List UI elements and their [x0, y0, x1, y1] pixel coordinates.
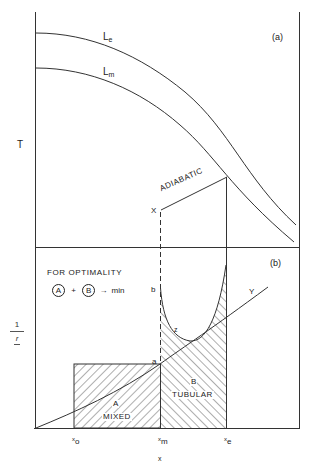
- region-a-name: MIXED: [102, 413, 132, 421]
- point-a-label: a: [152, 358, 156, 366]
- tick-label-xe: xe: [224, 436, 231, 446]
- region-b-tubular: [161, 265, 227, 428]
- y-axis-label-t: T: [17, 140, 23, 150]
- diagram-figure: [0, 0, 309, 475]
- circled-b: B: [82, 284, 95, 297]
- optimality-note-formula: A + B → min: [52, 284, 125, 297]
- y-axis-label-inverse-rate: 1 r: [10, 320, 24, 345]
- region-b-name: TUBULAR: [171, 391, 214, 399]
- arrow-icon: →: [99, 286, 107, 295]
- curve-z-label: z: [174, 326, 178, 333]
- region-b-letter: B: [190, 378, 197, 386]
- curve-le: [36, 33, 296, 225]
- circled-a: A: [52, 284, 65, 297]
- point-b-label: b: [151, 286, 155, 294]
- optimality-note-title: FOR OPTIMALITY: [47, 269, 122, 277]
- tick-label-xm: xm: [158, 436, 168, 446]
- tick-label-xo: xo: [72, 436, 79, 446]
- curve-lm-label: Lm: [103, 67, 114, 78]
- curve-le-label: Le: [103, 32, 112, 43]
- x-axis-label: x: [158, 455, 162, 462]
- panel-a-label: (a): [272, 33, 283, 42]
- curve-y-label: Y: [249, 288, 254, 296]
- panel-b-label: (b): [270, 259, 281, 268]
- point-x-label: X: [151, 207, 156, 215]
- curve-lm: [36, 68, 294, 242]
- region-a-letter: A: [112, 400, 119, 408]
